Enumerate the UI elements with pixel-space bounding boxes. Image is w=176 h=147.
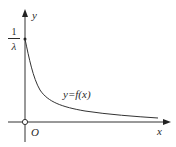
fraction-bar (8, 38, 20, 39)
x-axis-arrow-icon (163, 119, 171, 125)
curve-label: y=f(x) (63, 89, 91, 100)
function-curve (25, 39, 158, 118)
origin-label: O (31, 127, 39, 138)
graph-svg (0, 0, 176, 147)
y-intercept-label: 1 λ (8, 27, 20, 52)
origin-point (22, 119, 27, 124)
y-axis-arrow-icon (22, 9, 28, 17)
x-axis-label: x (157, 126, 162, 137)
fraction-denominator: λ (8, 41, 20, 52)
y-axis-label: y (32, 10, 37, 21)
function-graph: y x O y=f(x) 1 λ (0, 0, 176, 147)
fraction-numerator: 1 (8, 27, 20, 37)
